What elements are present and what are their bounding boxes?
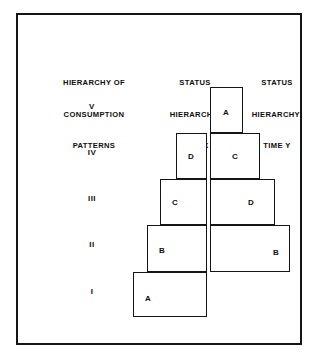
tier-letter: D (188, 152, 194, 161)
tier-letter: C (172, 198, 178, 207)
tier-letter: B (273, 248, 279, 257)
row-label-ii: II (64, 240, 120, 249)
tier-letter: C (232, 152, 238, 161)
figure-root: HIERARCHY OF CONSUMPTION PATTERNS STATUS… (0, 0, 320, 364)
tier-letter: A (145, 294, 151, 303)
tier-box-x-iv: D (176, 133, 207, 179)
tier-box-y-iii: D (210, 179, 275, 225)
tier-box-y-ii: B (210, 225, 290, 272)
diagram-outer-frame: HIERARCHY OF CONSUMPTION PATTERNS STATUS… (16, 13, 302, 345)
tier-box-x-iii: C (160, 179, 207, 225)
header-line-1: STATUS (234, 78, 320, 89)
tier-box-x-ii: B (147, 225, 207, 272)
header-line-1: HIERARCHY OF (42, 78, 146, 89)
header-line-2: HIERARCHY: (234, 110, 320, 121)
tier-letter: D (248, 198, 254, 207)
tier-box-y-iv: C (210, 133, 260, 179)
tier-letter: A (223, 108, 229, 117)
header-line-2: CONSUMPTION (42, 110, 146, 121)
row-label-i: I (64, 287, 120, 296)
row-label-iii: III (64, 194, 120, 203)
tier-letter: B (159, 246, 165, 255)
tier-box-x-i: A (133, 272, 207, 317)
row-label-iv: IV (64, 148, 120, 157)
row-label-v: V (64, 102, 120, 111)
tier-box-y-v: A (210, 87, 243, 133)
